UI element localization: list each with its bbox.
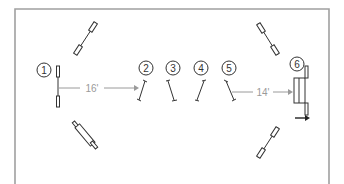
element-4: 4 bbox=[194, 61, 208, 101]
number-label-6: 6 bbox=[294, 59, 300, 70]
course-diagram: 1 16' 2 3 4 bbox=[0, 0, 344, 184]
ground-pole-5 bbox=[224, 80, 236, 101]
number-label-4: 4 bbox=[198, 63, 204, 74]
number-label-3: 3 bbox=[170, 63, 176, 74]
vertical-standard-bottom bbox=[57, 96, 60, 107]
ground-pole-2 bbox=[137, 80, 147, 101]
distance-label-14: 14' bbox=[256, 87, 269, 98]
wing-standard-bottom-right bbox=[257, 127, 280, 159]
element-2: 2 bbox=[137, 61, 153, 101]
arena-border bbox=[15, 9, 329, 184]
wing-standard-top-right bbox=[257, 23, 280, 56]
wing-standard-bottom-left bbox=[72, 121, 97, 149]
distance-label-16: 16' bbox=[85, 83, 98, 94]
number-label-1: 1 bbox=[41, 65, 47, 76]
direction-arrow-icon bbox=[295, 115, 310, 121]
element-6: 6 bbox=[290, 57, 308, 115]
distance-1-2 bbox=[59, 85, 139, 91]
number-label-2: 2 bbox=[143, 63, 149, 74]
oxer-standard-top bbox=[305, 66, 308, 78]
ground-pole-3 bbox=[166, 80, 177, 101]
number-label-5: 5 bbox=[226, 63, 232, 74]
oxer-standard-bottom bbox=[305, 103, 308, 115]
element-5: 5 bbox=[222, 61, 236, 101]
vertical-standard-top bbox=[57, 66, 60, 77]
element-1: 1 bbox=[37, 63, 60, 107]
element-3: 3 bbox=[166, 61, 180, 101]
wing-standard-top-left bbox=[74, 22, 98, 56]
ground-pole-4 bbox=[195, 80, 206, 101]
